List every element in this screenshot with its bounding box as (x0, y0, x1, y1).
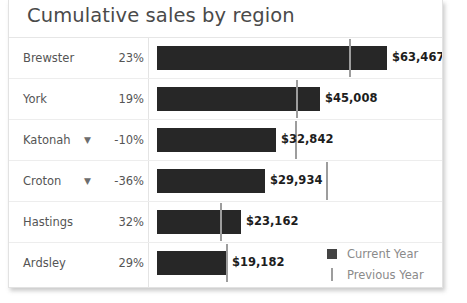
row-region-label: Ardsley (23, 256, 66, 270)
chart-card: Cumulative sales by region Brewster 23% … (8, 0, 443, 288)
row-value-label: $63,467 (392, 50, 443, 64)
row-change-percent: 29% (106, 256, 144, 270)
bar-current-year[interactable] (157, 210, 241, 234)
row-value-label: $23,162 (246, 214, 298, 228)
row-change-percent: 19% (106, 92, 144, 106)
chart-legend: Current Year Previous Year (327, 244, 443, 286)
bar-current-year[interactable] (157, 169, 265, 193)
reference-line-previous-year (296, 80, 298, 118)
row-region-label: York (23, 92, 47, 106)
row-change-percent: 32% (106, 215, 144, 229)
row-region-label: Croton (23, 174, 61, 188)
table-row[interactable]: Hastings 32% $23,162 (9, 201, 443, 241)
row-change-percent: -36% (106, 174, 144, 188)
reference-line-previous-year (226, 244, 228, 282)
table-row[interactable]: York 19% $45,008 (9, 78, 443, 118)
row-region-label: Brewster (23, 51, 74, 65)
bar-current-year[interactable] (157, 128, 276, 152)
row-region-label: Hastings (23, 215, 73, 229)
reference-line-previous-year (326, 162, 328, 200)
table-row[interactable]: Croton ▼ -36% $29,934 (9, 160, 443, 200)
row-value-label: $29,934 (270, 173, 322, 187)
trend-down-icon: ▼ (84, 175, 91, 187)
legend-label: Previous Year (347, 268, 424, 282)
legend-label: Current Year (347, 247, 418, 261)
reference-line-previous-year (349, 39, 351, 77)
square-swatch-icon (327, 249, 337, 259)
table-row[interactable]: Katonah ▼ -10% $32,842 (9, 119, 443, 159)
row-value-label: $32,842 (281, 132, 333, 146)
trend-down-icon: ▼ (84, 134, 91, 146)
bar-current-year[interactable] (157, 46, 387, 70)
row-change-percent: 23% (106, 51, 144, 65)
line-marker-icon (331, 268, 333, 281)
row-value-label: $45,008 (325, 91, 377, 105)
reference-line-previous-year (220, 203, 222, 241)
row-change-percent: -10% (106, 133, 144, 147)
row-value-label: $19,182 (232, 255, 284, 269)
bar-chart: Brewster 23% $63,467 York 19% $45,008 Ka… (9, 37, 443, 287)
bar-current-year[interactable] (157, 251, 227, 275)
row-region-label: Katonah (23, 133, 71, 147)
legend-item-previous-year[interactable]: Previous Year (327, 265, 443, 286)
page-title: Cumulative sales by region (27, 4, 295, 27)
table-row[interactable]: Brewster 23% $63,467 (9, 37, 443, 77)
legend-item-current-year[interactable]: Current Year (327, 244, 443, 265)
